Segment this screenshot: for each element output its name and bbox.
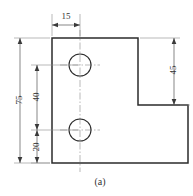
technical-drawing-figure: 15 75 40 20 45 (a) — [0, 0, 193, 196]
arrowhead-20-bottom-icon — [35, 157, 40, 163]
arrowhead-40-top-icon — [35, 65, 40, 71]
arrowhead-45-top-icon — [172, 38, 177, 44]
dim-label-15: 15 — [62, 11, 72, 21]
arrowhead-20-top-icon — [35, 130, 40, 136]
dim-label-20: 20 — [31, 142, 41, 152]
dim-label-40: 40 — [31, 92, 41, 102]
arrowhead-75-bottom-icon — [18, 157, 23, 163]
arrowhead-45-bottom-icon — [172, 99, 177, 105]
arrowhead-15-left-icon — [52, 23, 58, 28]
arrowhead-15-right-icon — [74, 23, 80, 28]
dim-label-45: 45 — [168, 65, 178, 75]
figure-caption: (a) — [94, 176, 105, 188]
arrowhead-75-top-icon — [18, 38, 23, 44]
dim-label-75: 75 — [14, 95, 24, 105]
arrowhead-40-bottom-icon — [35, 124, 40, 130]
engineering-drawing-canvas: 15 75 40 20 45 (a) — [0, 0, 193, 196]
